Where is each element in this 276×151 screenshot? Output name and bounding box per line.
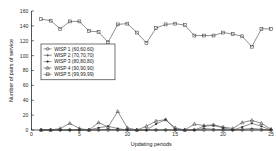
data-point-marker xyxy=(193,129,195,131)
y-tick-label: 20 xyxy=(23,112,29,118)
data-point-marker xyxy=(260,125,262,127)
x-tick-label: 20 xyxy=(220,131,226,137)
legend-item-label: WISP 4 (90,90,90) xyxy=(54,66,94,71)
series-5 xyxy=(40,18,273,48)
line-chart: 020406080100120140160 0510152025 Updatin… xyxy=(0,0,276,151)
chart-container: 020406080100120140160 0510152025 Updatin… xyxy=(0,0,276,151)
series-line xyxy=(41,19,271,47)
data-point-marker xyxy=(46,60,48,62)
data-point-marker xyxy=(69,129,71,131)
data-point-marker xyxy=(117,127,119,129)
data-point-marker xyxy=(202,127,205,130)
data-point-marker xyxy=(145,129,147,131)
data-point-marker xyxy=(155,123,157,125)
data-point-marker xyxy=(251,122,253,124)
series-line xyxy=(41,111,271,130)
data-point-marker xyxy=(250,127,253,130)
legend-item-label: WISP 2 (70,70,70) xyxy=(54,53,94,58)
y-axis-title: Number of pairs of service xyxy=(8,39,14,102)
x-axis-title: Updating periods xyxy=(131,141,172,147)
y-tick-label: 140 xyxy=(20,23,29,29)
legend-item-label: WISP 3 (80,80,80) xyxy=(54,59,94,64)
x-tick-label: 5 xyxy=(78,131,81,137)
y-tick-label: 160 xyxy=(20,8,29,14)
y-tick-label: 120 xyxy=(20,38,29,44)
data-point-marker xyxy=(97,127,99,129)
x-tick-label: 25 xyxy=(268,131,274,137)
y-tick-label: 100 xyxy=(20,53,29,59)
y-tick-label: 60 xyxy=(23,82,29,88)
y-tick-label: 0 xyxy=(25,127,28,133)
legend-item-label: WISP 5 (99,99,99) xyxy=(54,72,94,77)
data-point-marker xyxy=(241,126,243,128)
x-tick-label: 0 xyxy=(30,131,33,137)
y-tick-label: 40 xyxy=(23,97,29,103)
x-tick-label: 10 xyxy=(124,131,130,137)
x-tick-label: 15 xyxy=(172,131,178,137)
x-axis-ticks: 0510152025 xyxy=(30,128,274,138)
series-4 xyxy=(39,110,272,132)
series-2 xyxy=(40,127,273,131)
y-tick-label: 80 xyxy=(23,67,29,73)
chart-legend: WISP 1 (60,60,60)WISP 2 (70,70,70)WISP 3… xyxy=(41,44,115,80)
legend-item-label: WISP 1 (60,60,60) xyxy=(54,47,94,52)
